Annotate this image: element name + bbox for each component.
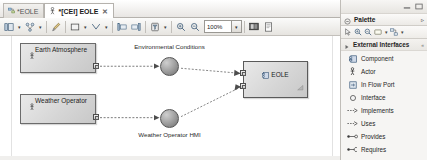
zoom-in-button[interactable]: [174, 20, 188, 34]
toolbar-separator: [244, 21, 245, 33]
component-icon: [347, 55, 358, 63]
palette-zoom-in-tool[interactable]: [353, 27, 363, 38]
palette-connector-tool[interactable]: [389, 27, 399, 38]
palette-item-list: Component Actor In Flo: [341, 51, 427, 160]
toolbar-separator: [112, 21, 113, 33]
connection-earth-to-environmental: [100, 64, 160, 69]
palette-item-label: Implements: [361, 107, 394, 114]
chevron-down-icon[interactable]: ▾: [162, 20, 169, 34]
palette-item-requires[interactable]: Requires: [341, 143, 427, 156]
editor-toolbar: ▾ ▾: [0, 18, 340, 36]
palette-item-label: Interface: [361, 94, 386, 101]
palette-title: Palette: [354, 16, 418, 23]
align-right-button[interactable]: [129, 20, 143, 34]
shape-fill-button[interactable]: [68, 20, 82, 34]
line-style-button[interactable]: [89, 20, 103, 34]
diagram-node-weather-operator[interactable]: Weather Operator: [20, 94, 96, 124]
palette-item-in-flow-port[interactable]: In Flow Port: [341, 78, 427, 91]
port-weather-out[interactable]: [93, 114, 99, 120]
provides-ball-icon: [347, 133, 358, 140]
chevron-down-icon[interactable]: ▾: [37, 20, 44, 34]
toolbar-separator: [171, 21, 172, 33]
select-tool-button[interactable]: [2, 20, 16, 34]
palette-item-uses[interactable]: Uses: [341, 117, 427, 130]
palette-item-interface[interactable]: Interface: [341, 91, 427, 104]
palette-note-tool[interactable]: [373, 27, 383, 38]
align-left-button[interactable]: [115, 20, 129, 34]
connection-weather-to-hmi: [100, 115, 160, 120]
editor-tab-bar: *EOLE *[CEI] EOLE ✕: [0, 0, 340, 18]
interface-label: Weather Operator HMI: [103, 131, 236, 138]
palette-item-label: Actor: [361, 68, 376, 75]
connection-hmi-to-eole: [181, 84, 241, 116]
port-earth-out[interactable]: [93, 63, 99, 69]
chevron-down-icon[interactable]: ▾: [399, 27, 405, 38]
palette-item-label: Requires: [361, 146, 386, 153]
chevron-down-icon[interactable]: ▾: [82, 20, 89, 34]
palette-group-title: External Interfaces: [353, 41, 418, 48]
palette-menu-icon[interactable]: ▹: [421, 16, 424, 23]
palette-item-label: Component: [361, 55, 394, 62]
palette-item-label: Uses: [361, 120, 375, 127]
requires-socket-icon: [347, 146, 358, 153]
palette-item-provides[interactable]: Provides: [341, 130, 427, 143]
filter-button[interactable]: [148, 20, 162, 34]
palette-panel: Palette ▹: [340, 0, 427, 160]
chevron-down-icon[interactable]: ▾: [231, 20, 242, 33]
palette-item-actor[interactable]: Actor: [341, 65, 427, 78]
interface-icon: [347, 94, 358, 102]
zoom-out-button[interactable]: [188, 20, 202, 34]
diagram-node-eole-component[interactable]: EOLE: [243, 61, 308, 98]
toolbar-separator: [46, 21, 47, 33]
component-corner-icon: [297, 77, 304, 95]
chevron-down-icon[interactable]: ▾: [103, 20, 110, 34]
actor-icon: [347, 67, 358, 76]
tab-label: *EOLE: [17, 8, 38, 15]
component-icon: [262, 65, 269, 83]
connection-environmental-to-eole: [181, 68, 241, 76]
toolbar-separator: [65, 21, 66, 33]
zoom-level-value[interactable]: 100%: [204, 20, 231, 33]
node-label: Earth Atmosphere: [21, 46, 95, 53]
port-eole-in-2[interactable]: [240, 83, 246, 89]
palette-item-component[interactable]: Component: [341, 52, 427, 65]
palette-header: Palette ▹: [341, 13, 427, 26]
tab-cei-eole[interactable]: *[CEI] EOLE ✕: [44, 3, 114, 18]
interface-environmental-conditions[interactable]: [160, 57, 179, 76]
close-icon[interactable]: ✕: [102, 8, 108, 15]
zoom-level-combobox[interactable]: 100% ▾: [204, 20, 242, 33]
canvas-horizontal-scrollbar[interactable]: [0, 156, 340, 160]
uses-arrow-icon: [347, 120, 358, 127]
palette-tool-strip: ▾ ▾: [341, 26, 427, 39]
palette-item-implements[interactable]: Implements: [341, 104, 427, 117]
port-eole-in-1[interactable]: [240, 70, 246, 76]
print-preview-button[interactable]: [261, 20, 275, 34]
node-label: EOLE: [271, 71, 288, 78]
diagram-icon: [8, 7, 15, 15]
implements-arrow-icon: [347, 107, 358, 114]
palette-item-label: In Flow Port: [361, 81, 395, 88]
chevron-down-icon[interactable]: ▾: [16, 20, 23, 34]
layout-tool-button[interactable]: [23, 20, 37, 34]
application-window: *EOLE *[CEI] EOLE ✕: [0, 0, 427, 160]
palette-group-count: «: [421, 42, 424, 48]
tab-eole[interactable]: *EOLE: [3, 3, 44, 18]
interface-label: Environmental Conditions: [103, 43, 236, 50]
toolbar-separator: [145, 21, 146, 33]
image-export-button[interactable]: [247, 20, 261, 34]
tab-label: *[CEI] EOLE: [58, 8, 98, 15]
palette-item-label: Provides: [361, 133, 386, 140]
palette-group-external-interfaces[interactable]: External Interfaces «: [341, 39, 427, 51]
interface-weather-operator-hmi[interactable]: [160, 109, 179, 128]
maximize-button[interactable]: [414, 3, 423, 11]
diagram-canvas[interactable]: Earth Atmosphere Weather Operator: [0, 36, 340, 160]
actor-diagram-icon: [49, 7, 56, 16]
diagram-node-earth-atmosphere[interactable]: Earth Atmosphere: [20, 43, 96, 73]
node-label: Weather Operator: [21, 97, 95, 104]
minimize-button[interactable]: [402, 3, 411, 11]
palette-zoom-out-tool[interactable]: [363, 27, 373, 38]
diagram-editor: *EOLE *[CEI] EOLE ✕: [0, 0, 340, 160]
palette-window-bar: [341, 0, 427, 13]
format-painter-button[interactable]: [49, 20, 63, 34]
flow-port-icon: [347, 81, 358, 89]
